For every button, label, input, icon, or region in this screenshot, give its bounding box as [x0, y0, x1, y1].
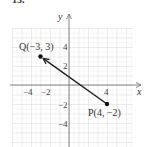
x-tick-4: 4	[104, 88, 109, 97]
point-q-label: Q(−3, 3)	[19, 42, 54, 52]
x-tick-neg4: −4	[23, 88, 33, 97]
y-tick-4: 4	[63, 43, 68, 52]
x-axis-label: x	[137, 87, 141, 97]
x-tick-neg2: −2	[41, 88, 51, 97]
point-p	[105, 102, 109, 106]
point-q	[38, 54, 42, 58]
y-tick-2: 2	[63, 62, 68, 71]
point-p-label: P(4, −2)	[88, 108, 121, 118]
y-axis-label: y	[58, 12, 62, 22]
coordinate-plane	[0, 0, 150, 147]
y-tick-neg4: −4	[58, 120, 68, 129]
y-tick-neg2: −2	[58, 101, 68, 110]
